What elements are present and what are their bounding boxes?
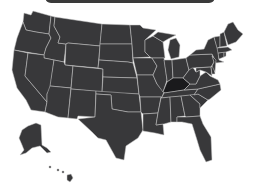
state-hawaii-4[interactable] (49, 166, 51, 168)
state-wyoming[interactable] (65, 43, 100, 68)
state-new-mexico[interactable] (68, 89, 96, 119)
state-maine[interactable] (224, 22, 243, 45)
state-massachusetts[interactable] (217, 47, 232, 53)
state-rhode-island[interactable] (224, 52, 226, 57)
state-alaska[interactable] (19, 123, 51, 155)
state-hawaii-2[interactable] (62, 171, 64, 173)
state-arizona[interactable] (45, 86, 71, 118)
state-colorado[interactable] (71, 66, 103, 92)
state-north-dakota[interactable] (100, 24, 132, 44)
state-michigan[interactable] (168, 38, 180, 59)
us-map (0, 0, 257, 192)
state-florida[interactable] (177, 116, 212, 162)
state-montana[interactable] (54, 17, 102, 46)
state-nebraska[interactable] (98, 60, 137, 78)
state-arkansas[interactable] (140, 97, 161, 114)
state-hawaii-3[interactable] (57, 169, 59, 171)
state-hawaii-1[interactable] (67, 174, 73, 182)
state-kansas[interactable] (102, 77, 139, 94)
